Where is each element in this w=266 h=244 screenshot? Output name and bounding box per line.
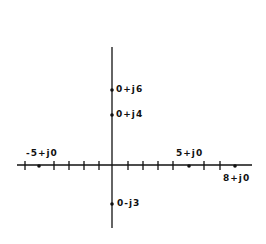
point-0-j4 (110, 113, 114, 117)
point-5-j0 (187, 164, 191, 168)
point-0-j6 (110, 88, 114, 92)
point-0-minus-j3 (110, 202, 114, 206)
point-8-j0 (233, 164, 237, 168)
label-5-j0: 5+j0 (176, 148, 203, 158)
label-minus5-j0: -5+j0 (26, 148, 58, 158)
label-8-j0: 8+j0 (223, 173, 250, 183)
label-0-j6: 0+j6 (116, 84, 143, 94)
label-0-minus-j3: 0-j3 (117, 198, 140, 208)
label-0-j4: 0+j4 (116, 109, 143, 119)
point-minus5-j0 (37, 164, 41, 168)
